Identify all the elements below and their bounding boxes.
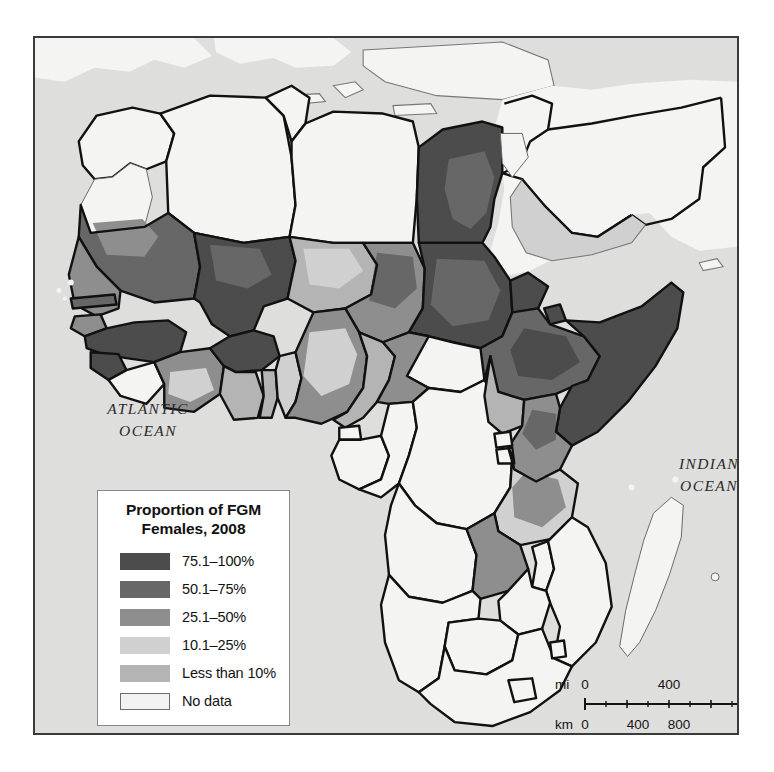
scale-ticks-kilometers: 0400800 [583, 717, 739, 733]
legend-swatch [120, 665, 170, 682]
country-rwanda [494, 432, 512, 448]
page-root: .c100 { fill:#4c4c4c; } .c75 { fill:#676… [0, 0, 774, 772]
country-lesotho [508, 678, 536, 702]
legend-row: 75.1–100% [108, 547, 279, 575]
scale-unit-kilometers: km [555, 717, 573, 732]
legend-swatch [120, 637, 170, 654]
legend-row: 25.1–50% [108, 603, 279, 631]
legend-label: Less than 10% [182, 665, 276, 681]
country-equatorial-guinea [339, 426, 361, 440]
middle-east-landmass [490, 80, 737, 277]
legend-label: No data [182, 693, 232, 709]
legend-row: No data [108, 687, 279, 715]
legend-label: 25.1–50% [182, 609, 246, 625]
legend-label: 10.1–25% [182, 637, 246, 653]
legend-swatch [120, 581, 170, 598]
country-sudan [409, 243, 512, 348]
country-togo [260, 370, 278, 418]
scale-tick-km: 800 [668, 717, 691, 732]
country-libya [290, 112, 419, 243]
legend-label: 75.1–100% [182, 553, 254, 569]
scale-tick-mi: 0 [581, 677, 589, 692]
legend-row: Less than 10% [108, 659, 279, 687]
legend-rows: 75.1–100%50.1–75%25.1–50%10.1–25%Less th… [108, 547, 279, 715]
scale-unit-miles: mi [555, 677, 569, 692]
legend-label: 50.1–75% [182, 581, 246, 597]
legend-row: 50.1–75% [108, 575, 279, 603]
map-frame: .c100 { fill:#4c4c4c; } .c75 { fill:#676… [33, 36, 739, 735]
scale-ticks-miles: 0400800 [583, 677, 739, 693]
legend-row: 10.1–25% [108, 631, 279, 659]
scale-tick-km: 400 [627, 717, 650, 732]
scale-tick-km: 0 [581, 717, 589, 732]
country-swaziland [550, 641, 566, 659]
legend-swatch [120, 609, 170, 626]
scale-ruler-graphic [583, 697, 739, 711]
country-algeria [160, 96, 295, 243]
scale-bar: mi 0400800 km 0400800 [555, 675, 739, 735]
map-legend: Proportion of FGM Females, 2008 75.1–100… [97, 490, 290, 726]
legend-title: Proportion of FGM Females, 2008 [108, 501, 279, 538]
legend-swatch [120, 553, 170, 570]
scale-tick-mi: 400 [658, 677, 681, 692]
legend-swatch [120, 693, 170, 710]
